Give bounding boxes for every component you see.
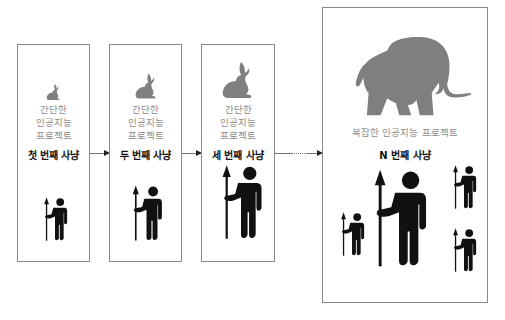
stage-2-box: 간단한 인공지능 프로젝트 두 번째 사냥 [109,44,182,262]
project-line-2: 인공지능 [202,116,274,129]
project-line-3: 프로젝트 [202,129,274,142]
stage-3-box: 간단한 인공지능 프로젝트 세 번째 사냥 [201,44,275,262]
project-line-1: 간단한 [202,103,274,116]
stage-1-box: 간단한 인공지능 프로젝트 첫 번째 사냥 [17,44,90,262]
hunt-label: N 번째 사냥 [323,147,487,162]
connector-arrow-2 [182,153,201,154]
hunt-label: 세 번째 사냥 [202,147,274,162]
connector-arrow-3 [275,153,322,154]
rabbit-icon [133,71,161,101]
connector-arrow-1 [90,153,109,154]
hunter-icon-small-left [339,212,365,256]
hunter-icon-small-top-right [451,165,477,209]
project-line-3: 프로젝트 [110,129,181,142]
hunter-icon [42,197,68,241]
hunter-icon [130,185,163,241]
project-line-2: 인공지능 [110,116,181,129]
hunter-icon [219,163,263,241]
rabbit-icon [219,59,259,101]
hunter-icon-large [370,168,428,268]
project-line-1: 복잡한 인공지능 프로젝트 [323,126,487,139]
hunter-icon-small-bottom-right [451,228,477,272]
hunt-label: 첫 번째 사냥 [18,147,89,162]
project-line-3: 프로젝트 [18,129,89,142]
project-line-1: 간단한 [18,103,89,116]
stage-n-box: 복잡한 인공지능 프로젝트 N 번째 사냥 [322,7,488,303]
hunt-label: 두 번째 사냥 [110,147,181,162]
elephant-icon [343,30,471,122]
project-line-2: 인공지능 [18,116,89,129]
rabbit-icon [45,83,63,101]
project-line-1: 간단한 [110,103,181,116]
